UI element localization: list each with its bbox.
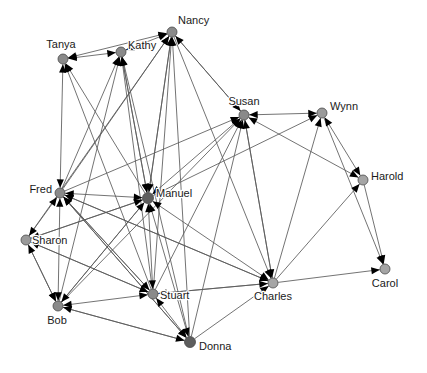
node-sharon[interactable]	[21, 235, 31, 245]
node-carol[interactable]	[380, 264, 390, 274]
arrowhead-bob-to-fred	[56, 198, 63, 207]
node-label-sharon: Sharon	[32, 234, 67, 246]
arrowhead-charles-to-susan	[243, 120, 250, 129]
node-label-carol: Carol	[372, 277, 398, 289]
node-stuart[interactable]	[148, 289, 158, 299]
node-donna[interactable]	[185, 337, 196, 348]
edge-manuel-susan	[152, 118, 240, 194]
arrowheads-layer	[28, 32, 385, 342]
node-label-manuel: Manuel	[156, 187, 192, 199]
edge-bob-fred	[58, 198, 60, 301]
edge-fred-tanya	[60, 64, 63, 188]
edge-fred-susan	[65, 117, 239, 191]
node-label-bob: Bob	[47, 314, 67, 326]
edge-bob-donna	[63, 307, 184, 340]
node-wynn[interactable]	[317, 108, 327, 118]
arrowhead-kathy-to-manuel	[142, 183, 149, 192]
edge-charles-carol	[278, 270, 380, 283]
arrowhead-charles-to-wynn	[315, 118, 322, 127]
edge-manuel-fred	[65, 193, 142, 197]
node-manuel[interactable]	[143, 193, 154, 204]
edge-bob-manuel	[61, 202, 144, 302]
edge-susan-harold	[249, 117, 359, 177]
node-label-stuart: Stuart	[160, 289, 189, 301]
edge-sharon-stuart	[31, 242, 148, 292]
node-charles[interactable]	[268, 278, 278, 288]
edge-fred-kathy	[62, 57, 119, 188]
node-label-fred: Fred	[29, 183, 52, 195]
node-kathy[interactable]	[116, 47, 126, 57]
edge-wynn-harold	[325, 117, 361, 175]
node-label-tanya: Tanya	[46, 38, 76, 50]
edge-donna-susan	[191, 120, 242, 336]
arrowhead-donna-to-bob	[63, 306, 72, 313]
node-labels-layer: TanyaKathyNancySusanWynnHaroldFredManuel…	[29, 14, 403, 352]
edge-charles-harold	[276, 184, 359, 279]
arrowhead-manuel-to-bob	[61, 293, 69, 302]
edge-stuart-nancy	[153, 37, 171, 289]
edge-manuel-charles	[153, 201, 269, 280]
arrowhead-bob-to-stuart	[139, 292, 148, 299]
edge-charles-wynn	[274, 118, 320, 278]
edge-susan-wynn	[249, 113, 317, 115]
network-graph-svg: TanyaKathyNancySusanWynnHaroldFredManuel…	[0, 0, 427, 373]
edge-nancy-charles	[174, 37, 271, 278]
edge-sharon-bob	[28, 245, 55, 302]
node-nancy[interactable]	[167, 27, 177, 37]
edge-manuel-donna	[150, 203, 189, 336]
arrowhead-tanya-to-kathy	[107, 50, 116, 57]
node-label-nancy: Nancy	[178, 14, 210, 26]
arrowhead-wynn-to-susan	[249, 111, 258, 118]
nodes-layer	[21, 27, 390, 348]
node-susan[interactable]	[239, 110, 249, 120]
edge-stuart-tanya	[65, 64, 151, 289]
network-graph-canvas: TanyaKathyNancySusanWynnHaroldFredManuel…	[0, 0, 427, 373]
edge-kathy-manuel	[122, 57, 147, 192]
arrowhead-harold-to-susan	[249, 117, 258, 124]
arrowhead-donna-to-manuel	[149, 203, 156, 212]
arrowhead-charles-to-carol	[371, 267, 380, 274]
edge-fred-stuart	[64, 197, 150, 290]
node-tanya[interactable]	[58, 54, 68, 64]
node-label-susan: Susan	[228, 95, 259, 107]
node-label-wynn: Wynn	[330, 100, 358, 112]
node-label-kathy: Kathy	[128, 39, 157, 51]
edge-sharon-manuel	[31, 200, 143, 238]
node-label-harold: Harold	[371, 170, 403, 182]
edge-wynn-carol	[324, 118, 383, 264]
edges-layer	[28, 33, 383, 340]
edge-stuart-bob	[63, 295, 148, 306]
edge-stuart-kathy	[122, 57, 153, 289]
node-fred[interactable]	[55, 188, 65, 198]
node-label-charles: Charles	[254, 290, 292, 302]
arrowhead-harold-to-wynn	[325, 117, 333, 126]
node-harold[interactable]	[358, 175, 368, 185]
node-bob[interactable]	[53, 301, 63, 311]
node-label-donna: Donna	[199, 340, 232, 352]
